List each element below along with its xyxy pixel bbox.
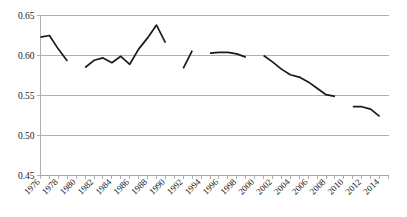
x-tick-label: 1986: [111, 176, 131, 196]
x-tick-label: 1988: [129, 176, 149, 196]
line-chart: 0.650.600.550.500.45 1976197819801982198…: [0, 0, 407, 217]
data-line-segment-1976-1979: [41, 36, 68, 62]
y-tick-label: 0.50: [18, 131, 35, 141]
x-tick-label: 2004: [272, 176, 292, 196]
x-tick-label: 2012: [343, 177, 363, 197]
x-tick-label: 1996: [201, 176, 221, 196]
x-tick-label: 2014: [361, 176, 381, 196]
x-tick-label: 1994: [183, 176, 203, 196]
y-tick-label: 0.65: [18, 11, 35, 21]
x-tick-label: 1978: [40, 176, 60, 196]
x-tick-label: 2006: [290, 176, 310, 196]
y-axis-tick-labels: 0.650.600.550.500.45: [18, 11, 35, 181]
gridlines: [41, 16, 389, 176]
y-tick-label: 0.60: [18, 51, 35, 61]
x-tick-label: 1992: [165, 177, 185, 197]
x-tick-label: 2000: [236, 176, 256, 196]
data-line-segment-1995-1999: [210, 52, 246, 57]
data-line-segment-1981-1990: [85, 25, 165, 67]
x-tick-label: 1998: [218, 176, 238, 196]
x-tick-label: 1980: [58, 176, 78, 196]
x-axis-tick-labels: 1976197819801982198419861988199019921994…: [22, 176, 381, 196]
y-tick-marks: [37, 16, 41, 176]
data-series-line: [41, 25, 380, 116]
x-tick-label: 2010: [325, 176, 345, 196]
x-tick-label: 2008: [308, 176, 328, 196]
data-line-segment-2001-2009: [264, 56, 335, 97]
data-line-segment-1992-1993: [183, 51, 192, 69]
chart-canvas: 0.650.600.550.500.45 1976197819801982198…: [0, 0, 407, 217]
data-line-segment-2011-2014: [353, 107, 380, 117]
x-tick-label: 1990: [147, 176, 167, 196]
x-tick-label: 2002: [254, 177, 274, 197]
x-tick-label: 1982: [76, 177, 96, 197]
x-tick-label: 1984: [93, 176, 113, 196]
y-tick-label: 0.55: [18, 91, 35, 101]
